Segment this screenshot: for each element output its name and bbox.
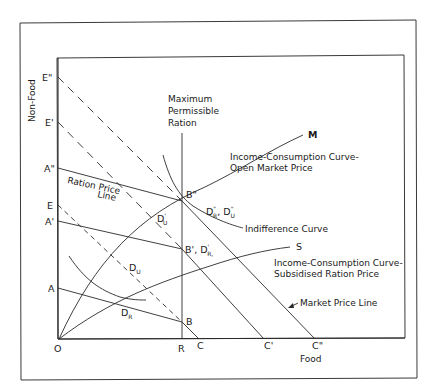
- x-axis-label: Food: [300, 354, 322, 364]
- label-C-prime: C': [264, 340, 273, 351]
- label-M: M: [308, 129, 317, 140]
- market-price-line-label: Market Price Line: [300, 298, 378, 308]
- max-ration-label-2: Permissible: [168, 106, 220, 116]
- label-A-double-prime: A": [44, 163, 55, 174]
- label-E-prime: E': [45, 117, 54, 128]
- icc-open-label-2: Open Market Price: [230, 163, 313, 173]
- label-E-double-prime: E": [42, 72, 52, 83]
- icc-subsidised-curve: [59, 247, 290, 339]
- label-E: E: [47, 200, 53, 211]
- label-B-double-prime: B": [186, 189, 197, 200]
- label-D-U-prime: D'U: [157, 212, 167, 226]
- label-D-R-U-double-prime: D"R, D"U: [206, 205, 235, 219]
- label-B-prime-D-R-prime: B', D'R,: [185, 243, 213, 257]
- label-origin-O: O: [54, 343, 61, 354]
- market-line-B-prime-C-prime: [182, 249, 264, 339]
- indifference-curve-label: Indifference Curve: [245, 224, 328, 234]
- label-S: S: [296, 241, 302, 252]
- label-A-prime: A': [45, 216, 54, 227]
- label-B: B: [186, 316, 193, 327]
- label-A: A: [48, 283, 55, 294]
- x-axis: [58, 338, 405, 339]
- icc-open-label-1: Income-Consumption Curve-: [230, 152, 359, 162]
- outer-frame: [20, 20, 417, 380]
- label-C-double-prime: C": [312, 340, 323, 351]
- icc-subsidised-label-2: Subsidised Ration Price: [274, 269, 379, 279]
- arrowhead-icon: [288, 303, 294, 308]
- icc-subsidised-label-1: Income-Consumption Curve-: [274, 258, 403, 268]
- max-ration-label-3: Ration: [168, 118, 197, 128]
- label-C: C: [197, 340, 204, 351]
- label-R: R: [178, 343, 185, 354]
- label-D-R: DR: [121, 307, 133, 320]
- ration-diagram: Non-Food Food E" E' A" E A' A O R C C' C…: [0, 0, 434, 390]
- max-ration-label-1: Maximum: [168, 94, 212, 104]
- y-axis-label: Non-Food: [27, 79, 37, 122]
